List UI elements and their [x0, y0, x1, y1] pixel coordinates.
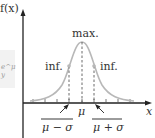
mean-label: μ: [78, 106, 85, 117]
inflection-left-label: inf.: [45, 61, 63, 72]
lower-bound-label: μ − σ: [42, 122, 73, 133]
y-axis-arrow-icon: [21, 9, 26, 16]
normal-distribution-diagram: e^μ y: [0, 0, 155, 138]
upper-bound-label: μ + σ: [93, 122, 124, 133]
x-axis-label: x: [146, 106, 152, 117]
inflection-point-left: [67, 64, 71, 68]
y-axis-label: f(x): [0, 3, 19, 14]
peak-label: max.: [72, 28, 99, 39]
inflection-point-right: [92, 64, 96, 68]
inflection-right-label: inf.: [100, 61, 118, 72]
